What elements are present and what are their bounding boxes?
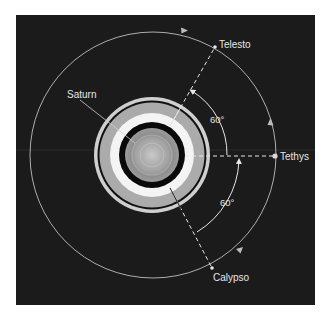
label-calypso: Calypso [213, 272, 250, 283]
telesto-moon [213, 45, 217, 49]
label-tethys: Tethys [280, 151, 309, 162]
label-saturn: Saturn [67, 89, 96, 100]
saturn-tethys-orbit-diagram: Saturn Telesto Tethys Calypso 60° 60° [0, 0, 330, 317]
saturn-planet [125, 128, 179, 182]
calypso-moon [210, 266, 214, 270]
tethys-moon [272, 153, 277, 158]
label-angle-lower: 60° [220, 197, 235, 208]
label-angle-upper: 60° [210, 114, 225, 125]
label-telesto: Telesto [219, 39, 251, 50]
